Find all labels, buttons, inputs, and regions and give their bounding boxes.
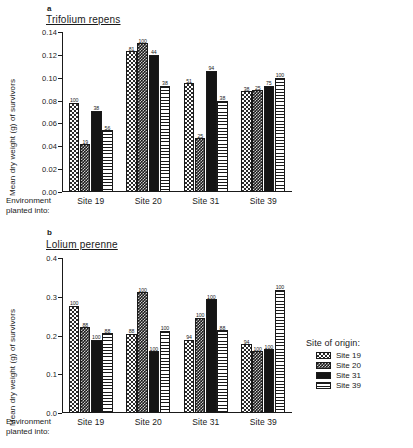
panel-a-x-caption: Environment planted into: [6, 196, 51, 216]
bar: 100 [160, 331, 171, 413]
bar: 94 [206, 71, 217, 192]
panel-letter-b: b [47, 228, 52, 237]
legend: Site of origin: Site 19Site 20Site 31Sit… [306, 338, 410, 391]
bar-value-label: 100 [150, 346, 158, 352]
bar-group: 811004438 [120, 32, 178, 192]
legend-item: Site 20 [316, 361, 410, 370]
panel-letter-a: a [47, 4, 52, 13]
legend-item: Site 39 [316, 381, 410, 390]
bar-value-label: 81 [129, 46, 135, 52]
panel-b-x-caption-line2: planted into: [6, 427, 50, 436]
bar-value-label: 100 [70, 97, 78, 103]
x-group-label: Site 19 [77, 417, 104, 427]
bar-group: 94100100100 [235, 258, 293, 413]
legend-items: Site 19Site 20Site 31Site 39 [306, 351, 410, 390]
y-tick-label: 0.06 [42, 119, 57, 128]
y-tick-label: 0.14 [42, 28, 57, 37]
bar: 88 [126, 334, 137, 413]
bar-value-label: 100 [70, 300, 78, 306]
bar-value-label: 94 [209, 65, 215, 71]
legend-swatch [316, 372, 331, 379]
bar-value-label: 100 [161, 325, 169, 331]
bar-value-label: 100 [139, 287, 147, 293]
bar: 44 [149, 55, 160, 192]
bar-value-label: 75 [266, 80, 272, 86]
x-group-label: Site 31 [192, 196, 219, 206]
bar-value-label: 100 [139, 38, 147, 44]
bar-value-label: 100 [276, 284, 284, 290]
bar-value-label: 56 [105, 125, 111, 131]
bar-group: 1008810088 [62, 258, 120, 413]
bar: 88 [80, 327, 91, 413]
bar-value-label: 100 [276, 72, 284, 78]
bar: 81 [126, 51, 137, 192]
y-tick-label: 0.12 [42, 50, 57, 59]
bar-value-label: 25 [255, 85, 261, 91]
bar-value-label: 38 [244, 86, 250, 92]
bar-value-label: 94 [244, 339, 250, 345]
panel-a-title: Trifolium repens [46, 14, 121, 25]
bar-group: 51259438 [177, 32, 235, 192]
bar-value-label: 100 [207, 294, 215, 300]
bar-value-label: 38 [220, 95, 226, 101]
y-tick [58, 192, 62, 193]
bar-value-label: 44 [151, 49, 157, 55]
bar: 38 [91, 111, 102, 192]
bar: 25 [252, 90, 263, 192]
bar: 100 [264, 349, 275, 413]
bar-group: 9410010088 [177, 258, 235, 413]
bar-value-label: 88 [129, 328, 135, 334]
bar: 51 [184, 83, 195, 192]
legend-swatch [316, 362, 331, 369]
bar-group: 382575100 [235, 32, 293, 192]
bar-value-label: 38 [162, 80, 168, 86]
y-tick-label: 0.08 [42, 96, 57, 105]
y-tick-label: 0.1 [46, 370, 57, 379]
bar-value-label: 100 [265, 344, 273, 350]
legend-label: Site 39 [336, 381, 361, 390]
bar: 38 [217, 101, 228, 192]
panel-a-x-caption-line1: Environment [6, 196, 51, 205]
x-group-label: Site 20 [135, 196, 162, 206]
panel-b-x-caption-line1: Environment [6, 417, 51, 426]
bar-value-label: 94 [186, 334, 192, 340]
bar: 56 [102, 130, 113, 192]
y-tick-label: 0.2 [46, 331, 57, 340]
bar: 100 [275, 290, 286, 413]
bar-value-label: 19 [82, 139, 88, 145]
bar: 100 [91, 340, 102, 413]
panel-a: a Trifolium repens Mean dry weight (g) o… [0, 4, 300, 220]
bar-group: 88100100100 [120, 258, 178, 413]
bar-value-label: 88 [82, 322, 88, 328]
panel-b-title: Lolium perenne [46, 239, 118, 250]
bar: 100 [195, 318, 206, 413]
legend-title: Site of origin: [306, 338, 410, 348]
bar-value-label: 51 [186, 78, 192, 84]
panel-b-y-axis-label: Mean dry weight (g) of survivors [8, 309, 17, 426]
bar: 100 [275, 78, 286, 192]
legend-label: Site 19 [336, 351, 361, 360]
legend-item: Site 19 [316, 351, 410, 360]
figure-root: a Trifolium repens Mean dry weight (g) o… [0, 0, 413, 448]
bar: 88 [102, 333, 113, 413]
y-tick-label: 0.3 [46, 292, 57, 301]
bar: 100 [69, 103, 80, 192]
x-group-label: Site 39 [250, 417, 277, 427]
bar: 88 [217, 330, 228, 413]
legend-swatch [316, 382, 331, 389]
bar: 100 [137, 292, 148, 413]
y-tick-label: 0.4 [46, 254, 57, 263]
bar: 19 [80, 144, 91, 192]
panel-b-plot-area: 0.00.10.20.30.4 100881008888100100100941… [62, 258, 292, 413]
bar-group: 100193856 [62, 32, 120, 192]
bar-value-label: 88 [220, 325, 226, 331]
bar: 94 [241, 344, 252, 413]
y-tick [58, 413, 62, 414]
x-group-label: Site 31 [192, 417, 219, 427]
legend-label: Site 20 [336, 361, 361, 370]
panel-a-y-axis-label: Mean dry weight (g) of survivors [8, 79, 17, 196]
bar-value-label: 100 [254, 346, 262, 352]
bar-value-label: 88 [105, 328, 111, 334]
bar: 100 [137, 43, 148, 192]
legend-item: Site 31 [316, 371, 410, 380]
